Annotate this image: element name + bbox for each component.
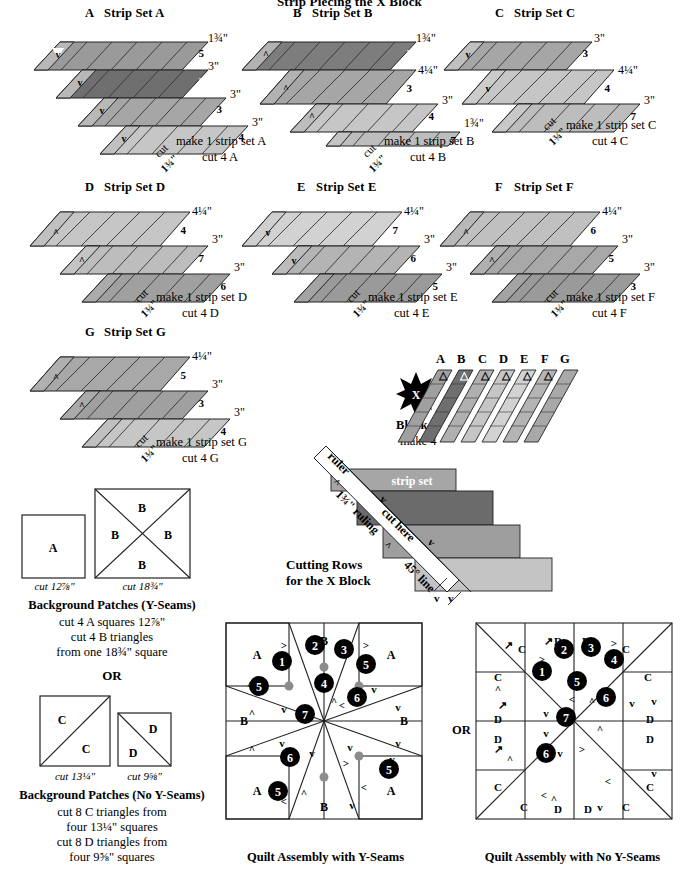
strip-A-cut-text: cut 4 A: [202, 150, 238, 164]
assembly-noy-C-4: C: [494, 781, 502, 793]
assembly-noy-C-0: C: [518, 643, 526, 655]
svg-text:v: v: [395, 737, 401, 749]
assembly-noy-D-5: D: [646, 733, 654, 745]
svg-text:<: <: [605, 775, 611, 787]
svg-text:^: ^: [79, 400, 85, 411]
assembly-noy-D-4: D: [646, 713, 654, 725]
svg-text:△: △: [459, 369, 469, 381]
svg-text:>: >: [363, 639, 369, 651]
svg-text:<: <: [361, 781, 367, 793]
strip-G-width-2: 3": [234, 405, 245, 420]
assembly-noy-C-3: C: [622, 643, 630, 655]
strip-D-fabric-0: 4: [181, 224, 187, 236]
svg-text:v: v: [434, 592, 440, 604]
strip-set-G-letter: G: [85, 325, 95, 340]
svg-text:v: v: [448, 592, 454, 604]
svg-text:△: △: [438, 369, 448, 381]
strip-set-G: G Strip Set G ^ ^: [60, 325, 290, 465]
svg-text:<: <: [541, 789, 547, 801]
assembly-noy-C-1: C: [494, 671, 502, 683]
background-noy-line-3: four 9⅝" squares: [0, 850, 224, 864]
patch-c-letter-1: C: [82, 742, 91, 756]
assembly-y-A-3: A: [387, 784, 396, 798]
strip-F-width-2: 3": [644, 260, 655, 275]
strip-F-fabric-1: 5: [609, 252, 615, 264]
svg-text:^: ^: [331, 695, 337, 707]
assembly-y-A-1: A: [387, 648, 396, 662]
svg-text:v: v: [557, 747, 563, 759]
svg-text:>: >: [579, 743, 585, 755]
strip-G-cut-text: cut 4 G: [182, 451, 219, 465]
assembly-noy-C-6: C: [622, 801, 630, 813]
assembly-noy-graphic: C C C C C C C C D D D D D D D D ↗↗ >v > …: [472, 605, 687, 853]
strip-D-width-0: 4¼": [192, 204, 212, 219]
block-x-col-F: F: [541, 352, 549, 367]
svg-text:△: △: [501, 369, 511, 381]
assembly-noy-step-2: 2: [561, 643, 567, 657]
strip-B-fabric-0: 2: [407, 47, 413, 59]
strip-G-make-text: make 1 strip set G: [156, 435, 247, 449]
svg-text:^: ^: [589, 695, 595, 707]
assembly-y-B-3: B: [320, 800, 328, 814]
strip-F-cut-text: cut 4 F: [592, 306, 627, 320]
cutting-rows-panel: strip set vv ruler 1¾" ruling cut here 4…: [284, 428, 604, 613]
background-noy-line-1: four 13¼" squares: [0, 820, 224, 834]
assembly-noy-C-2: C: [644, 671, 652, 683]
patch-d-letter-0: D: [149, 722, 158, 736]
assembly-y-step-3: 3: [341, 643, 347, 657]
patch-a-letter-text: A: [49, 541, 58, 555]
strip-D-width-1: 3": [212, 232, 223, 247]
patch-b-letter-bottom: B: [138, 558, 146, 572]
background-patches-y: A B B B B cut 12⅞" cut 18¾" Background P…: [0, 470, 230, 580]
strip-A-fabric-0: 5: [199, 47, 205, 59]
background-y-heading: Background Patches (Y-Seams): [0, 598, 224, 613]
assembly-y-step-5d: 5: [275, 785, 281, 799]
assembly-y-graphic: A A A A B B B B >> v ^v v< ^ ^v vv ^v >v…: [222, 605, 432, 853]
assembly-y-step-7: 7: [302, 708, 308, 722]
assembly-noy-step-7: 7: [563, 711, 569, 725]
svg-text:^: ^: [53, 227, 59, 238]
background-y-line-0: cut 4 A squares 12⅞": [0, 615, 224, 629]
svg-text:v: v: [281, 703, 287, 715]
strip-set-F: F Strip Set F ^ ^: [470, 180, 699, 320]
assembly-noy-D-2: D: [494, 713, 502, 725]
svg-text:<: <: [569, 693, 575, 705]
svg-text:^: ^: [283, 83, 289, 94]
svg-text:^: ^: [489, 255, 495, 266]
strip-set-F-title: Strip Set F: [514, 180, 574, 195]
svg-text:^: ^: [53, 372, 59, 383]
svg-text:v: v: [100, 105, 105, 116]
strip-A-fabric-1: 2: [199, 75, 205, 87]
svg-text:v: v: [56, 49, 61, 60]
assembly-noy-panel: OR C C C C C: [460, 605, 685, 870]
patch-b-cut-label: cut 18¾": [95, 580, 190, 592]
background-y-graphic: A B B B B: [0, 470, 230, 580]
block-x-col-D: D: [499, 352, 508, 367]
patch-c-cut-label: cut 13¼": [40, 770, 110, 782]
patch-b-letter-left: B: [111, 528, 119, 542]
assembly-y-step-5a: 5: [256, 680, 262, 694]
strip-set-F-letter: F: [495, 180, 503, 195]
background-noy-line-2: cut 8 D triangles from: [0, 835, 224, 849]
svg-text:v: v: [347, 741, 353, 753]
svg-text:^: ^: [507, 753, 513, 765]
assembly-y-caption: Quilt Assembly with Y-Seams: [218, 850, 433, 865]
strip-E-width-0: 4¼": [404, 204, 424, 219]
assembly-y-step-2: 2: [312, 639, 318, 653]
assembly-noy-caption: Quilt Assembly with No Y-Seams: [460, 850, 685, 865]
assembly-noy-step-3: 3: [588, 641, 594, 655]
svg-text:v: v: [543, 727, 549, 739]
cutting-title-line1-text: Cutting Rows: [286, 557, 362, 572]
svg-text:↗: ↗: [544, 635, 553, 647]
background-patches-noy: C C D D cut 13¼" cut 9⅝" Background Patc…: [0, 690, 230, 780]
strip-set-C-title: Strip Set C: [514, 6, 575, 21]
strip-C-make-text: make 1 strip set C: [566, 118, 656, 132]
svg-text:v: v: [349, 799, 355, 811]
assembly-noy-step-6a: 6: [603, 691, 609, 705]
patch-b-letter-top: B: [138, 501, 146, 515]
svg-text:v: v: [122, 133, 127, 144]
svg-text:^: ^: [249, 743, 255, 755]
strip-F-width-0: 4¼": [602, 204, 622, 219]
cutting-rows-graphic: strip set vv ruler 1¾" ruling cut here 4…: [284, 428, 604, 613]
svg-text:v: v: [486, 83, 491, 94]
